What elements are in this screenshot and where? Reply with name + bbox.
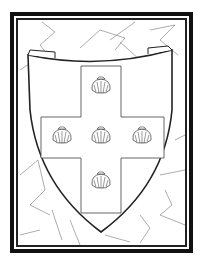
coat-of-arms-illustration — [0, 0, 201, 263]
